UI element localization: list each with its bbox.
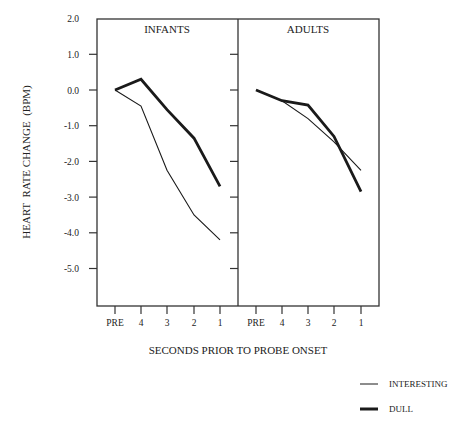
y-tick-label: -2.0 [64, 157, 79, 167]
y-tick-label: 2.0 [67, 14, 79, 24]
x-axis-ticks: PRE4321PRE4321 [106, 306, 363, 328]
legend-label-interesting: INTERESTING [389, 379, 448, 389]
plot-frame [97, 19, 379, 306]
series-line-infants-interesting [115, 90, 220, 240]
x-tick-label: 1 [359, 318, 364, 328]
y-tick-label: -4.0 [64, 228, 79, 238]
y-tick-label: 0.0 [67, 86, 79, 96]
x-tick-label: 4 [280, 318, 285, 328]
y-axis-ticks: 2.01.00.0-1.0-2.0-3.0-4.0-5.0 [64, 14, 238, 274]
x-tick-label: 1 [218, 318, 223, 328]
y-tick-label: -1.0 [64, 121, 79, 131]
y-tick-label: -3.0 [64, 193, 79, 203]
legend: INTERESTING DULL [360, 379, 448, 414]
x-tick-label: 2 [332, 318, 337, 328]
x-tick-label: 4 [139, 318, 144, 328]
legend-label-dull: DULL [389, 404, 413, 414]
y-tick-label: -5.0 [64, 264, 79, 274]
x-tick-label: PRE [106, 318, 124, 328]
y-tick-label: 1.0 [67, 50, 79, 60]
x-tick-label: 3 [306, 318, 311, 328]
x-tick-label: 3 [165, 318, 170, 328]
x-tick-label: PRE [247, 318, 265, 328]
panel-title-infants: INFANTS [144, 23, 190, 35]
series-line-adults-dull [256, 90, 361, 192]
x-axis-label: SECONDS PRIOR TO PROBE ONSET [149, 344, 328, 356]
heart-rate-chart: 2.01.00.0-1.0-2.0-3.0-4.0-5.0 PRE4321PRE… [0, 0, 467, 430]
panel-title-adults: ADULTS [287, 23, 329, 35]
y-axis-label: HEART RATE CHANGE (BPM) [20, 85, 33, 239]
x-tick-label: 2 [192, 318, 197, 328]
